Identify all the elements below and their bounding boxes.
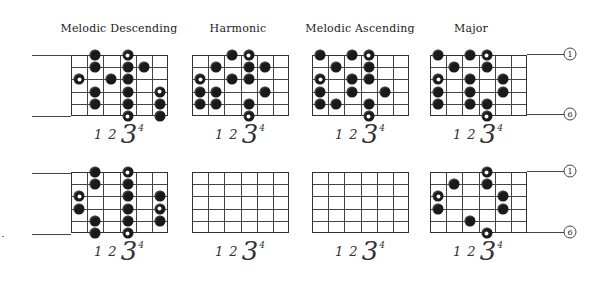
fret-line [87,56,88,115]
note-dot [481,98,492,109]
fret-line [479,173,480,232]
fret-line [377,173,378,232]
root-note-dot [122,50,133,61]
root-note-dot [195,74,206,85]
finger-number-3: 3 [121,236,138,266]
fretboard-major-bottom [430,172,527,233]
note-dot [90,62,101,73]
note-dot [90,167,101,178]
finger-number-3: 3 [242,236,259,266]
fret-line [208,56,209,115]
note-dot [465,74,476,85]
note-dot [211,98,222,109]
note-dot [122,215,133,226]
fret-line [361,173,362,232]
root-note-dot [122,167,133,178]
note-dot [243,74,254,85]
string-6-label: 6 [564,226,577,239]
note-dot [379,86,390,97]
note-dot [363,62,374,73]
note-dot [106,74,117,85]
note-dot [122,191,133,202]
finger-number-4: 4 [497,123,503,133]
fretboard-melodic-ascending-bottom [312,172,409,233]
fret-line [462,173,463,232]
finger-number-4: 4 [138,240,144,250]
string-extension-line [527,54,564,55]
fingering-label: 1234 [332,236,385,266]
string-extension-line [527,114,564,115]
string-extension-line [32,116,71,117]
finger-number-4: 4 [379,123,385,133]
fret-line [120,173,121,232]
fretboard-harmonic-top [192,55,289,116]
root-note-dot [433,191,444,202]
string-extension-line [527,171,564,172]
note-dot [211,62,222,73]
finger-number-1: 1 [335,244,343,259]
fret-line [462,56,463,115]
note-dot [74,203,85,214]
fret-line [344,173,345,232]
note-dot [90,215,101,226]
finger-number-4: 4 [379,240,385,250]
note-dot [497,86,508,97]
fret-line [495,56,496,115]
root-note-dot [154,86,165,97]
fingering-label: 1234 [212,236,265,266]
root-note-dot [154,203,165,214]
note-dot [433,50,444,61]
note-dot [122,98,133,109]
fret-line [273,173,274,232]
note-dot [347,86,358,97]
note-dot [90,86,101,97]
string-extension-line [32,234,71,235]
fret-line [152,173,153,232]
finger-number-3: 3 [480,236,497,266]
note-dot [465,50,476,61]
finger-number-3: 3 [362,119,379,149]
finger-number-1: 1 [335,127,343,142]
finger-number-1: 1 [94,127,102,142]
fret-line [224,56,225,115]
finger-number-1: 1 [215,127,223,142]
title-major: Major [454,22,488,35]
fretboard-melodic-descending-top [71,55,168,116]
note-dot [315,86,326,97]
fret-line [136,56,137,115]
fret-line [136,173,137,232]
note-dot [315,98,326,109]
fret-line [224,173,225,232]
note-dot [138,62,149,73]
string-extension-line [32,55,71,56]
fret-line [152,56,153,115]
note-dot [433,98,444,109]
fret-line [344,56,345,115]
fret-line [120,56,121,115]
fret-line [446,173,447,232]
finger-number-3: 3 [121,119,138,149]
note-dot [195,86,206,97]
note-dot [90,98,101,109]
string-extension-line [32,173,71,174]
fingering-label: 1234 [91,236,144,266]
fret-line [103,173,104,232]
note-dot [331,98,342,109]
finger-number-1: 1 [453,127,461,142]
finger-number-1: 1 [215,244,223,259]
finger-number-2: 2 [467,244,475,259]
note-dot [227,74,238,85]
finger-number-3: 3 [480,119,497,149]
note-dot [465,98,476,109]
fret-line [393,173,394,232]
root-note-dot [481,167,492,178]
finger-number-2: 2 [349,244,357,259]
fret-line [328,56,329,115]
note-dot [243,62,254,73]
note-dot [154,215,165,226]
note-dot [154,111,165,122]
finger-number-2: 2 [229,244,237,259]
note-dot [481,62,492,73]
root-note-dot [74,74,85,85]
fingering-label: 1234 [450,236,503,266]
